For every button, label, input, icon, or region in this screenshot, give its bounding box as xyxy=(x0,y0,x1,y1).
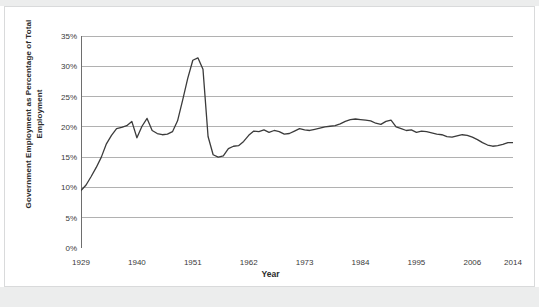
y-tick-label: 35% xyxy=(61,32,77,41)
y-tick-label: 25% xyxy=(61,92,77,101)
line-chart-svg xyxy=(81,36,513,248)
y-tick-label: 5% xyxy=(65,213,77,222)
y-axis-title: Government Employment as Percentage of T… xyxy=(23,9,45,219)
axis-lines xyxy=(81,36,82,248)
x-tick-label: 1940 xyxy=(128,258,146,267)
chart-figure: Government Employment as Percentage of T… xyxy=(4,6,535,287)
x-tick-label: 1929 xyxy=(72,258,90,267)
x-tick-label: 1995 xyxy=(408,258,426,267)
y-tick-label: 10% xyxy=(61,183,77,192)
y-tick-label: 15% xyxy=(61,153,77,162)
x-tick-label: 2006 xyxy=(463,258,481,267)
figure-page: Government Employment as Percentage of T… xyxy=(0,0,539,307)
x-axis-title: Year xyxy=(5,269,536,279)
page-band-bottom xyxy=(0,287,539,307)
gridlines xyxy=(81,36,513,248)
y-tick-label: 0% xyxy=(65,244,77,253)
x-tick-label: 1951 xyxy=(184,258,202,267)
x-tick-label: 2014 xyxy=(504,258,522,267)
x-tick-label: 1962 xyxy=(240,258,258,267)
x-tick-label: 1973 xyxy=(296,258,314,267)
x-tick-label: 1984 xyxy=(352,258,370,267)
plot-area: 0%5%10%15%20%25%30%35% 19291940195119621… xyxy=(81,36,513,248)
y-tick-label: 20% xyxy=(61,122,77,131)
data-line-series xyxy=(81,58,513,191)
y-tick-label: 30% xyxy=(61,62,77,71)
